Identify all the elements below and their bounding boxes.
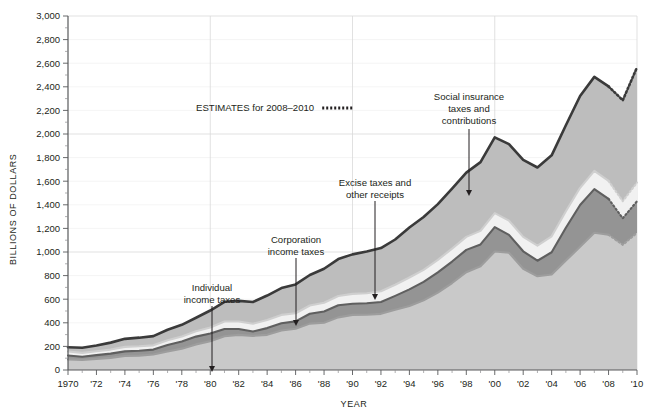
estimates-legend-label: ESTIMATES for 2008–2010 <box>196 102 314 113</box>
y-tick-label: 800 <box>44 270 60 281</box>
y-tick-label: 600 <box>44 294 60 305</box>
x-tick-label: '88 <box>318 378 330 389</box>
y-tick-label: 1,200 <box>36 223 60 234</box>
x-tick-label: '86 <box>289 378 301 389</box>
x-tick-label: '74 <box>119 378 131 389</box>
x-tick-label: '94 <box>403 378 415 389</box>
chart-svg: 02004006008001,0001,2001,4001,6001,8002,… <box>0 0 650 417</box>
x-tick-label: '02 <box>517 378 529 389</box>
x-tick-label: '92 <box>375 378 387 389</box>
y-tick-label: 3,000 <box>36 10 60 21</box>
x-tick-label: '84 <box>261 378 273 389</box>
x-tick-label: '78 <box>176 378 188 389</box>
x-tick-label: 1970 <box>57 378 78 389</box>
y-tick-label: 0 <box>55 364 60 375</box>
y-tick-label: 2,000 <box>36 128 60 139</box>
x-tick-label: '08 <box>602 378 614 389</box>
y-tick-label: 2,200 <box>36 105 60 116</box>
y-tick-label: 400 <box>44 317 60 328</box>
y-tick-label: 200 <box>44 341 60 352</box>
y-tick-label: 2,600 <box>36 58 60 69</box>
y-tick-label: 1,800 <box>36 152 60 163</box>
y-tick-label: 1,400 <box>36 199 60 210</box>
x-tick-label: '96 <box>432 378 444 389</box>
x-tick-label: '72 <box>90 378 102 389</box>
x-tick-label: '00 <box>489 378 501 389</box>
x-tick-label: '04 <box>545 378 557 389</box>
x-tick-label: '90 <box>346 378 358 389</box>
x-tick-label: '80 <box>204 378 216 389</box>
x-tick-label: '06 <box>574 378 586 389</box>
x-tick-label: '76 <box>147 378 159 389</box>
y-tick-label: 2,400 <box>36 81 60 92</box>
annotation-label: Corporationincome taxes <box>268 234 325 257</box>
annotation-label: Individualincome taxes <box>184 282 241 305</box>
x-axis-title: YEAR <box>341 399 368 409</box>
y-tick-label: 1,600 <box>36 176 60 187</box>
y-axis-title: BILLIONS OF DOLLARS <box>8 154 18 265</box>
y-tick-label: 1,000 <box>36 246 60 257</box>
y-tick-label: 2,800 <box>36 34 60 45</box>
receipts-area-chart: 02004006008001,0001,2001,4001,6001,8002,… <box>0 0 650 417</box>
x-tick-label: '98 <box>460 378 472 389</box>
x-tick-label: '10 <box>631 378 643 389</box>
x-tick-label: '82 <box>233 378 245 389</box>
annotation-label: Excise taxes andother receipts <box>339 177 412 200</box>
